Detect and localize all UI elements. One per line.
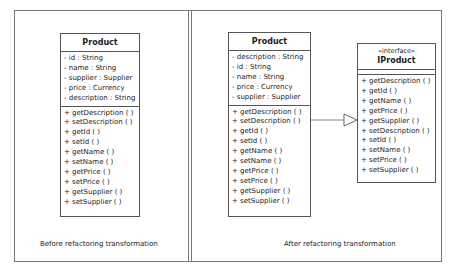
realization-arrow-icon bbox=[0, 0, 454, 276]
after-caption: After refactoring transformation bbox=[284, 240, 396, 248]
